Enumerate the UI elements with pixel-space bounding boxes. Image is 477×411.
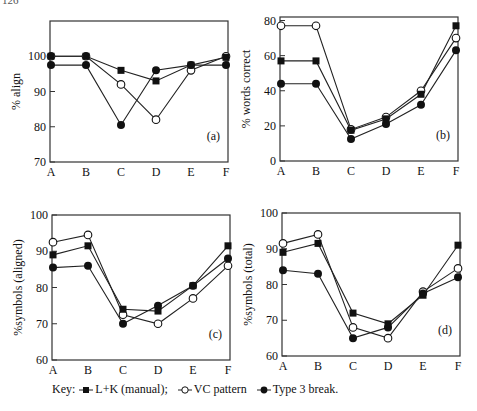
x-tick-label: A [279,359,288,373]
open-circle-marker-icon [452,34,460,42]
x-tick-label: C [347,164,355,178]
open-circle-marker-icon [49,238,57,246]
filled-square-marker-icon [190,282,197,289]
filled-circle-marker-icon [349,334,357,342]
panel-label: (c) [209,327,222,341]
filled-square-marker-icon [385,320,392,327]
open-circle-marker-icon [279,240,287,248]
legend-item-vc: VC pattern [178,382,247,397]
open-circle-marker-icon [154,320,162,328]
chart-panel-c: 60708090100ABCDEF%symbols (aligned)(c) [11,208,232,377]
y-tick-label: 60 [266,349,278,363]
filled-square-marker-icon [225,242,232,249]
y-tick-label: 0 [270,154,276,168]
y-tick-label: 70 [36,317,48,331]
filled-square-marker-icon [280,249,287,256]
chart-panel-b: 020406080ABCDEF% words correct(b) [239,14,460,178]
chart-panel-d: 60708090100ABCDEF%symbols (total)(d) [241,206,462,373]
x-tick-label: C [349,359,357,373]
y-axis-label: % align [9,73,23,110]
x-tick-label: B [314,359,322,373]
x-tick-label: E [417,164,424,178]
filled-circle-marker-icon [117,121,125,129]
open-circle-marker-icon [117,81,125,89]
x-tick-label: E [187,165,194,179]
y-tick-label: 90 [266,242,278,256]
legend-label-lk: L+K (manual); [95,382,167,397]
x-tick-label: C [117,165,125,179]
filled-square-marker-icon [418,91,425,98]
filled-circle-marker-icon [417,101,425,109]
x-tick-label: A [277,164,286,178]
filled-circle-marker-icon [222,61,230,69]
plot-frame [50,21,228,162]
x-tick-label: D [154,363,163,377]
legend-item-type3: Type 3 break. [257,382,338,397]
open-circle-marker-icon [454,265,462,273]
x-tick-label: F [223,165,230,179]
x-tick-label: B [84,363,92,377]
series-line [283,243,458,323]
filled-square-marker-icon [153,77,160,84]
x-tick-label: E [189,363,196,377]
y-tick-label: 80 [34,120,46,134]
legend-label-vc: VC pattern [194,382,247,397]
filled-circle-marker-icon [279,266,287,274]
filled-square-marker-icon [313,57,320,64]
filled-circle-marker-icon [277,80,285,88]
open-circle-marker-icon [314,231,322,239]
y-tick-label: 80 [264,14,276,28]
filled-square-marker-icon [120,306,127,313]
open-circle-marker-icon [312,22,320,30]
legend-item-lk: L+K (manual); [79,382,167,397]
filled-square-marker-icon [83,53,90,60]
series-line [51,56,226,81]
y-tick-label: 70 [266,313,278,327]
open-circle-marker-icon [349,324,357,332]
x-tick-label: E [419,359,426,373]
filled-circle-marker-icon [119,320,127,328]
y-axis-label: %symbols (total) [241,243,255,325]
x-tick-label: B [312,164,320,178]
filled-square-marker-icon [315,240,322,247]
y-axis-label: %symbols (aligned) [11,239,25,335]
series-line [281,50,456,139]
y-tick-label: 40 [264,84,276,98]
filled-square-marker-icon [278,57,285,64]
open-circle-marker-icon [224,262,232,270]
open-circle-marker-icon [384,334,392,342]
filled-circle-marker-icon [49,264,57,272]
filled-circle-marker-icon [84,262,92,270]
filled-circle-marker-icon [152,66,160,74]
filled-circle-marker-icon [452,46,460,54]
x-tick-label: C [119,363,127,377]
x-tick-label: A [47,165,56,179]
filled-circle-marker-icon [312,80,320,88]
y-tick-label: 100 [30,208,48,222]
filled-square-marker-icon [348,127,355,134]
filled-square-marker-icon [48,53,55,60]
x-tick-label: D [382,164,391,178]
x-tick-label: F [453,164,460,178]
filled-square-marker-icon [350,310,357,317]
filled-circle-marker-icon [47,61,55,69]
y-tick-label: 20 [264,119,276,133]
series-line [283,234,458,338]
filled-square-marker-icon [155,308,162,315]
filled-circle-marker-icon [454,273,462,281]
filled-square-marker-icon [85,242,92,249]
filled-circle-marker-icon [257,385,271,395]
filled-circle-marker-icon [347,135,355,143]
y-tick-label: 90 [34,85,46,99]
series-line [51,56,226,119]
filled-square-marker-icon [188,62,195,69]
panel-label: (b) [436,128,450,142]
x-tick-label: F [455,359,462,373]
open-circle-marker-icon [189,295,197,303]
panel-label: (d) [438,323,452,337]
x-tick-label: B [82,165,90,179]
y-tick-label: 100 [28,49,46,63]
x-tick-label: A [49,363,58,377]
x-tick-label: D [152,165,161,179]
filled-square-marker-icon [118,67,125,74]
